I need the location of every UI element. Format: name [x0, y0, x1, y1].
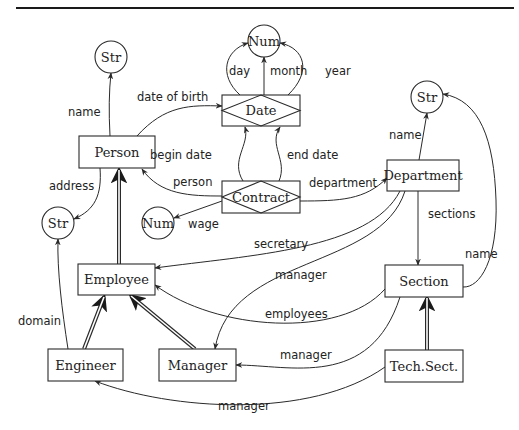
- edge-contract-wage: [174, 201, 222, 218]
- edge-label-dept-name: name: [389, 128, 422, 142]
- node-str-person-name: Str: [95, 41, 127, 73]
- node-section: Section: [385, 265, 463, 297]
- node-engineer: Engineer: [48, 349, 123, 381]
- node-label: Contract: [232, 190, 291, 205]
- node-department: Department: [383, 160, 463, 191]
- nodes-layer: StrNumDatePersonContractDepartmentStrStr…: [42, 25, 463, 382]
- node-label: Employee: [84, 272, 149, 287]
- node-label: Tech.Sect.: [390, 359, 458, 374]
- node-label: Num: [248, 34, 280, 49]
- node-contract: Contract: [222, 181, 300, 213]
- isa-edge-manager-isa-employee: [131, 296, 195, 349]
- node-label: Str: [48, 216, 69, 231]
- node-label: Num: [142, 216, 174, 231]
- isa-edge-engineer-isa-employee: [84, 297, 104, 349]
- node-label: Person: [95, 145, 141, 160]
- edge-person-address: [74, 168, 100, 219]
- edge-label-section-manager: manager: [280, 348, 332, 362]
- edge-label-contract-wage: wage: [188, 217, 219, 231]
- node-str-dept-name: Str: [411, 81, 443, 113]
- edge-label-person-name: name: [68, 105, 101, 119]
- edge-person-name: [109, 73, 111, 136]
- edge-label-dept-manager: manager: [275, 268, 327, 282]
- node-tech-sect: Tech.Sect.: [385, 350, 463, 382]
- edge-label-section-employees: employees: [265, 307, 328, 321]
- edge-label-person-dob: date of birth: [137, 90, 208, 104]
- edge-label-date-year: year: [325, 64, 351, 78]
- er-diagram: StrNumDatePersonContractDepartmentStrStr…: [0, 0, 519, 430]
- edge-label-contract-end: end date: [287, 148, 338, 162]
- node-person: Person: [79, 136, 155, 168]
- edge-label-engineer-domain: domain: [18, 314, 61, 328]
- node-label: Section: [399, 274, 449, 289]
- edge-label-section-name: name: [465, 247, 498, 261]
- edge-label-date-day: day: [229, 64, 250, 78]
- edge-label-techsect-manager: manager: [218, 399, 270, 413]
- node-str-address: Str: [42, 207, 74, 239]
- node-label: Str: [417, 90, 438, 105]
- edge-label-dept-sections: sections: [428, 207, 475, 221]
- edge-contract-end: [276, 127, 281, 181]
- edge-engineer-domain: [58, 239, 68, 349]
- node-employee: Employee: [78, 264, 155, 295]
- edge-person-dob: [137, 106, 222, 136]
- node-label: Manager: [168, 358, 228, 373]
- node-label: Engineer: [55, 358, 116, 373]
- edge-contract-begin: [239, 127, 246, 181]
- node-label: Str: [101, 50, 122, 65]
- node-date: Date: [222, 95, 300, 126]
- node-num-wage: Num: [142, 207, 174, 239]
- edge-label-contract-department: department: [309, 176, 378, 190]
- node-label: Department: [383, 168, 463, 183]
- edge-label-dept-secretary: secretary: [254, 237, 308, 251]
- edge-label-contract-person: person: [173, 175, 212, 189]
- node-manager: Manager: [159, 349, 236, 381]
- edge-label-date-month: month: [270, 64, 307, 78]
- node-label: Date: [245, 103, 276, 118]
- edge-label-contract-begin: begin date: [150, 148, 212, 162]
- edge-label-person-address: address: [49, 179, 94, 193]
- node-num-date: Num: [248, 25, 280, 57]
